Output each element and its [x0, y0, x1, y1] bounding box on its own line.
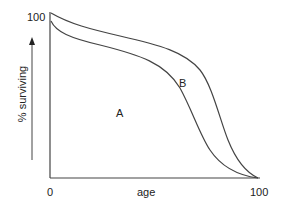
survivorship-chart [0, 0, 283, 208]
upper-curve [51, 13, 258, 178]
region-a-label: A [116, 107, 123, 119]
y-axis-label: % surviving [16, 64, 28, 124]
x-tick-100: 100 [250, 186, 268, 198]
x-tick-0: 0 [47, 186, 53, 198]
arrow-up-icon [29, 37, 35, 45]
region-b-label: B [179, 77, 186, 89]
x-axis-label: age [137, 186, 155, 198]
y-tick-100: 100 [27, 11, 45, 23]
